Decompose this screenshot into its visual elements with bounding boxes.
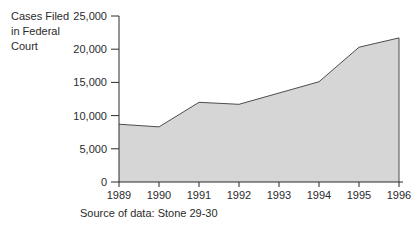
figure: Cases Filed in Federal Court 05,00010,00… [0,0,420,233]
area-chart: 05,00010,00015,00020,00025,0001989199019… [0,0,420,233]
source-note: Source of data: Stone 29-30 [80,207,218,219]
x-tick-label: 1992 [227,189,251,201]
y-tick-label: 5,000 [79,143,107,155]
x-tick-label: 1993 [267,189,291,201]
x-tick-label: 1990 [147,189,171,201]
x-tick-label: 1991 [187,189,211,201]
x-tick-label: 1995 [347,189,371,201]
y-tick-label: 20,000 [73,43,107,55]
x-tick-label: 1996 [387,189,411,201]
x-tick-label: 1989 [107,189,131,201]
y-tick-label: 10,000 [73,110,107,122]
y-tick-label: 0 [101,176,107,188]
x-tick-label: 1994 [307,189,331,201]
y-tick-label: 15,000 [73,76,107,88]
area-fill [119,38,399,182]
y-tick-label: 25,000 [73,10,107,22]
